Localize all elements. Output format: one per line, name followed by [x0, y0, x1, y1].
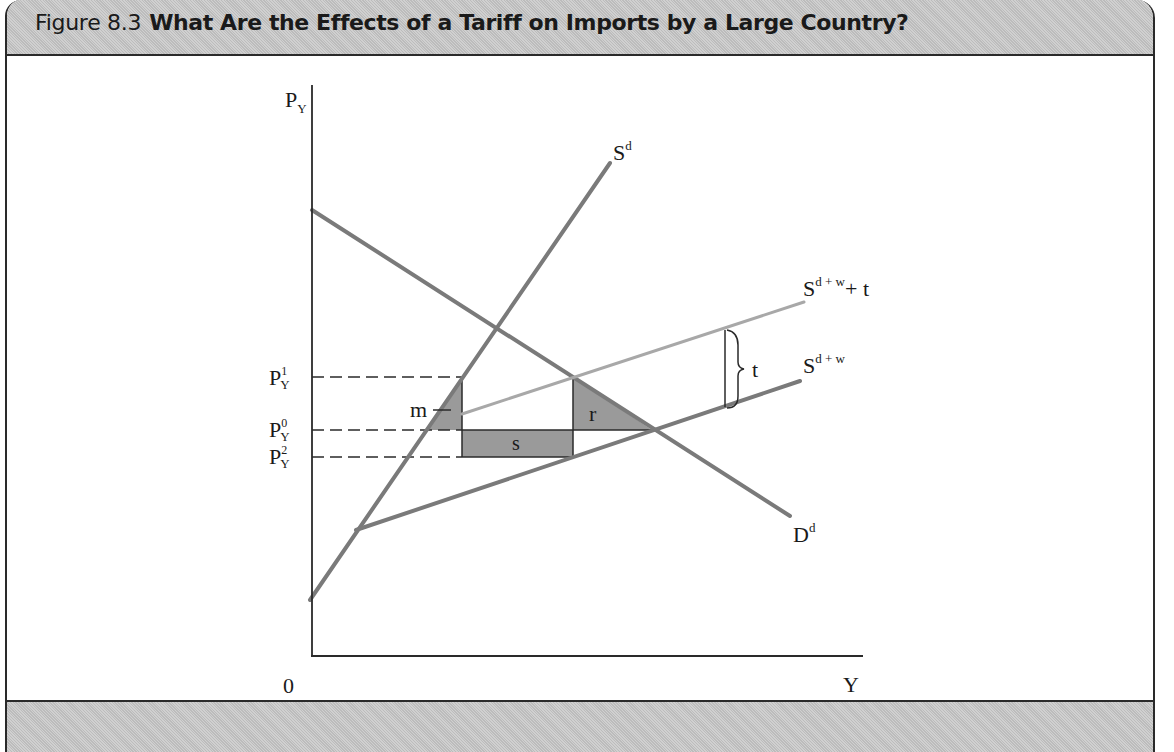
labels: PY 0 Y Sd Dd Sd + w+ t Sd + w t P1Y P0Y … — [269, 87, 869, 698]
p0-label: P0Y — [269, 416, 290, 444]
domestic-demand-curve — [312, 210, 790, 516]
tariff-diagram: PY 0 Y Sd Dd Sd + w+ t Sd + w t P1Y P0Y … — [0, 0, 1174, 752]
x-axis-label: Y — [843, 672, 859, 697]
area-m-label: m — [410, 397, 427, 422]
sd-label: Sd — [613, 138, 632, 165]
area-s-label: s — [512, 432, 520, 454]
tariff-label: t — [752, 357, 758, 382]
sdw-label: Sd + w — [803, 351, 846, 378]
axes — [311, 85, 863, 656]
origin-label: 0 — [283, 673, 294, 698]
curves — [310, 163, 804, 600]
sdwt-label: Sd + w+ t — [803, 274, 869, 301]
area-r-label: r — [589, 401, 597, 426]
dd-label: Dd — [793, 520, 816, 547]
y-axis-label: PY — [285, 87, 307, 116]
tariff-bracket — [725, 330, 744, 408]
p2-label: P2Y — [269, 443, 290, 471]
p1-label: P1Y — [269, 364, 290, 392]
